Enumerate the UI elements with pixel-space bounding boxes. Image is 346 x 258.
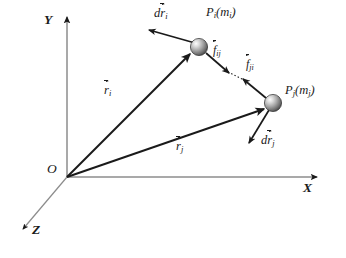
particle-j-label: Pj(mj) xyxy=(285,84,315,98)
particle-j-symbol: P xyxy=(285,83,293,97)
particle-j-sphere xyxy=(264,94,281,111)
displacement-i-line xyxy=(149,30,195,43)
force-ji-subscript: ji xyxy=(249,63,254,72)
position-vector-j-label: rj xyxy=(176,140,183,154)
physics-vector-diagram: Y X Z O Pi(mi) Pj(mj) ri rj dri drj fij … xyxy=(0,0,346,258)
displacement-i-label: dri xyxy=(154,7,168,21)
displacement-j-symbol: r xyxy=(267,133,272,147)
particle-i-sphere xyxy=(190,38,207,55)
vector-overbar-icon xyxy=(176,136,180,137)
position-vector-i-label: ri xyxy=(104,84,111,98)
particle-i-label: Pi(mi) xyxy=(206,6,236,20)
diagram-canvas xyxy=(0,0,346,258)
position-vector-j-subscript: j xyxy=(181,144,183,154)
particle-group xyxy=(190,38,281,111)
particle-j-paren-close: ) xyxy=(311,83,315,97)
force-ij-symbol: f xyxy=(213,43,216,57)
z-axis-line xyxy=(23,177,67,229)
x-axis-label: X xyxy=(303,181,312,195)
axis-group xyxy=(23,17,317,229)
position-vector-i-line xyxy=(67,54,190,177)
force-ij-subscript: ij xyxy=(216,49,221,58)
displacement-i-subscript: i xyxy=(165,11,167,21)
force-group xyxy=(206,53,266,98)
vector-overbar-icon xyxy=(246,54,249,55)
particle-i-symbol: P xyxy=(206,5,214,19)
vector-overbar-icon xyxy=(267,130,271,131)
y-axis-label: Y xyxy=(44,13,52,27)
z-axis-label: Z xyxy=(32,223,40,237)
vector-overbar-icon xyxy=(213,40,216,41)
origin-label: O xyxy=(47,162,57,176)
force-ji-line xyxy=(243,79,266,98)
position-vector-group xyxy=(67,54,264,177)
particle-j-mass-symbol: m xyxy=(299,83,308,97)
vector-overbar-icon xyxy=(104,80,108,81)
position-vector-i-subscript: i xyxy=(109,88,111,98)
force-ji-symbol: f xyxy=(246,57,249,71)
position-vector-i-symbol: r xyxy=(104,83,109,97)
displacement-j-label: drj xyxy=(261,134,275,148)
position-vector-j-symbol: r xyxy=(176,139,181,153)
vector-overbar-icon xyxy=(160,3,164,4)
particle-i-paren-close: ) xyxy=(232,5,236,19)
position-vector-j-line xyxy=(67,109,264,177)
force-ji-label: fji xyxy=(246,58,254,72)
particle-i-mass-symbol: m xyxy=(220,5,229,19)
displacement-j-subscript: j xyxy=(272,138,274,148)
displacement-i-symbol: r xyxy=(160,6,165,20)
force-ij-label: fij xyxy=(213,44,221,58)
